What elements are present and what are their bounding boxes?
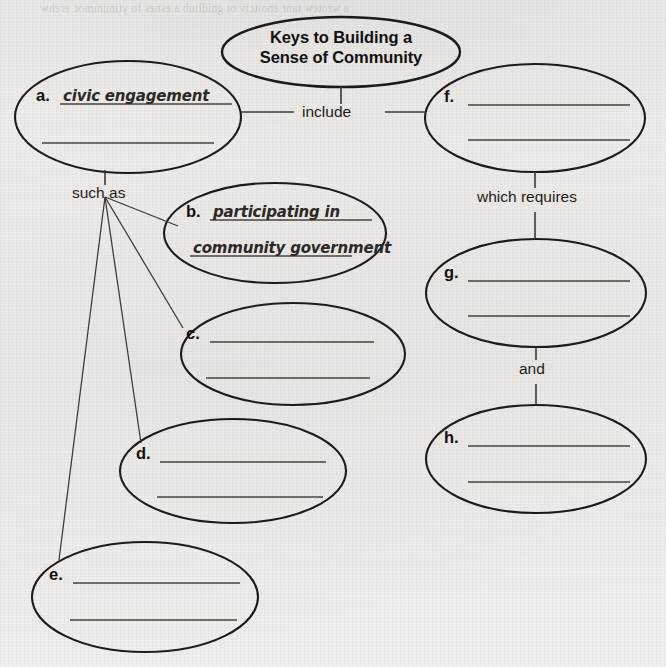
worksheet-page: a wrotew ianr enoitciv ot gnidliub a esn… (0, 0, 666, 667)
ellipse-g[interactable] (426, 239, 646, 347)
connector-fan-to-d (105, 197, 141, 443)
label-g: g. (444, 263, 459, 282)
ellipse-f[interactable] (425, 64, 645, 172)
label-c: c. (186, 324, 200, 343)
ellipse-e[interactable] (32, 542, 258, 652)
ellipse-h[interactable] (426, 405, 646, 513)
ellipse-b[interactable] (164, 183, 386, 283)
label-b: b. (186, 202, 201, 221)
ellipse-c[interactable] (181, 303, 405, 405)
label-h: h. (444, 428, 459, 447)
organizer-title: Keys to Building a Sense of Community (221, 27, 461, 67)
connector-fan-to-e (59, 197, 105, 560)
answer-b-line-2[interactable]: community government (193, 239, 391, 257)
label-e: e. (49, 565, 63, 584)
label-d: d. (136, 444, 151, 463)
answer-a-line-1[interactable]: civic engagement (63, 87, 209, 105)
title-line-1: Keys to Building a (221, 27, 461, 47)
label-a: a. (36, 86, 50, 105)
ellipse-a[interactable] (15, 61, 241, 173)
connector-label-include: include (302, 103, 351, 121)
connector-label-such-as: such as (72, 184, 125, 202)
connector-label-and: and (519, 360, 545, 378)
label-f: f. (444, 87, 454, 106)
answer-b-line-1[interactable]: participating in (213, 203, 340, 221)
connector-label-which-requires: which requires (477, 188, 577, 206)
title-line-2: Sense of Community (221, 47, 461, 67)
ellipse-d[interactable] (120, 419, 346, 523)
